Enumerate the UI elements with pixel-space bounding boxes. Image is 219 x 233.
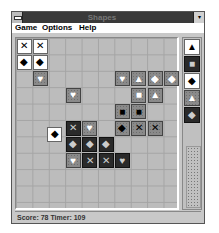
board-heart-tile: ♥ bbox=[66, 153, 81, 168]
window-title: Shapes bbox=[12, 12, 192, 23]
board-x-tile: ✕ bbox=[131, 121, 146, 136]
level-meter bbox=[186, 146, 201, 208]
board-diamond-tile: ◆ bbox=[164, 71, 179, 86]
next-square-tile: ■ bbox=[184, 56, 200, 72]
maximize-button[interactable]: ▾ bbox=[193, 12, 204, 23]
board-x-tile: ✕ bbox=[82, 153, 97, 168]
game-window: Shapes ▾ Game Options Help ✕✕◆◆♥♥▲◆◆♥■▲■… bbox=[11, 11, 205, 224]
board-heart-tile: ♥ bbox=[115, 71, 130, 86]
board-triangle-tile: ▲ bbox=[131, 71, 146, 86]
board-diamond-tile: ◆ bbox=[148, 71, 163, 86]
board-x-tile: ✕ bbox=[66, 121, 81, 136]
menu-help[interactable]: Help bbox=[79, 23, 96, 33]
board-diamond-tile: ◆ bbox=[115, 121, 130, 136]
board-heart-tile: ♥ bbox=[82, 121, 97, 136]
board-x-tile: ✕ bbox=[17, 39, 32, 54]
board-square-tile: ■ bbox=[131, 104, 146, 119]
falling-diamond-tile[interactable]: ◆ bbox=[47, 127, 62, 142]
menu-bar: Game Options Help bbox=[12, 23, 204, 33]
board-diamond-tile: ◆ bbox=[33, 55, 48, 70]
board-heart-tile: ♥ bbox=[66, 88, 81, 103]
game-board[interactable]: ✕✕◆◆♥♥▲◆◆♥■▲■■✕♥◆✕✕◆◆◆♥✕✕♥◆ bbox=[15, 37, 179, 210]
menu-game[interactable]: Game bbox=[15, 23, 37, 33]
next-diamond-tile: ◆ bbox=[184, 73, 200, 89]
next-pieces-panel: ▲■◆▲◆ bbox=[182, 37, 202, 210]
menu-options[interactable]: Options bbox=[42, 23, 72, 33]
board-x-tile: ✕ bbox=[148, 121, 163, 136]
board-square-tile: ■ bbox=[115, 104, 130, 119]
board-x-tile: ✕ bbox=[33, 39, 48, 54]
status-bar: Score: 78 Timer: 109 bbox=[15, 211, 201, 222]
next-triangle-tile: ▲ bbox=[184, 90, 200, 106]
board-diamond-tile: ◆ bbox=[66, 137, 81, 152]
board-diamond-tile: ◆ bbox=[17, 55, 32, 70]
board-square-tile: ■ bbox=[131, 88, 146, 103]
board-heart-tile: ♥ bbox=[115, 153, 130, 168]
title-bar[interactable]: Shapes ▾ bbox=[12, 12, 204, 23]
board-diamond-tile: ◆ bbox=[82, 137, 97, 152]
board-triangle-tile: ▲ bbox=[148, 88, 163, 103]
board-diamond-tile: ◆ bbox=[99, 137, 114, 152]
board-x-tile: ✕ bbox=[99, 153, 114, 168]
board-heart-tile: ♥ bbox=[33, 71, 48, 86]
next-triangle-tile: ▲ bbox=[184, 39, 200, 55]
next-diamond-tile: ◆ bbox=[184, 107, 200, 123]
